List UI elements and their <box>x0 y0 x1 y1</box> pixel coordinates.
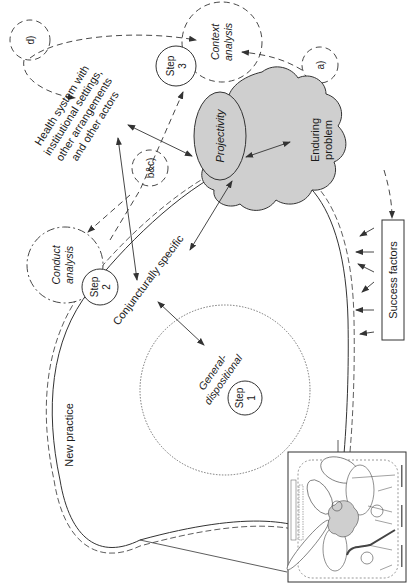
svg-text:d): d) <box>25 36 36 45</box>
context-analysis-label: Context analysis <box>209 22 234 61</box>
diagram-canvas: Health system with institutional setting… <box>0 0 420 583</box>
svg-text:Enduring: Enduring <box>309 118 321 162</box>
marker-d-label: d) <box>25 36 36 45</box>
svg-text:analysis: analysis <box>222 22 234 61</box>
svg-text:1: 1 <box>246 395 257 401</box>
conduct-analysis-label: Conduct analysis <box>50 244 75 284</box>
svg-text:Step: Step <box>165 55 176 76</box>
svg-text:Conjuncturally specific: Conjuncturally specific <box>110 232 186 327</box>
general-dispositional-circle <box>140 305 310 475</box>
framework-inset <box>284 452 406 582</box>
svg-text:Conduct: Conduct <box>50 244 62 284</box>
svg-text:Context: Context <box>209 23 221 60</box>
success-factors-label: Success factors <box>387 241 399 319</box>
svg-text:problem: problem <box>322 120 334 160</box>
svg-text:a): a) <box>315 61 326 70</box>
svg-text:New practice: New practice <box>63 403 75 467</box>
svg-text:3: 3 <box>177 63 188 69</box>
marker-a-label: a) <box>315 61 326 70</box>
svg-text:b&c): b&c) <box>145 158 156 179</box>
svg-text:Step: Step <box>89 276 100 297</box>
marker-bc-label: b&c) <box>145 158 156 179</box>
svg-text:2: 2 <box>101 284 112 290</box>
conjuncturally-specific-label: Conjuncturally specific <box>110 232 186 327</box>
svg-text:Success factors: Success factors <box>387 241 399 319</box>
projectivity-label: Projectivity <box>214 108 226 163</box>
enduring-problem-label: Enduring problem <box>309 118 334 162</box>
svg-text:Step: Step <box>234 387 245 408</box>
new-practice-label: New practice <box>63 403 75 467</box>
svg-text:analysis: analysis <box>63 245 75 284</box>
step3-circle <box>156 46 196 86</box>
step2-circle <box>82 269 118 305</box>
health-system-label: Health system with institutional setting… <box>30 60 126 171</box>
success-factor-arrows <box>356 228 374 334</box>
svg-text:Projectivity: Projectivity <box>214 108 226 163</box>
